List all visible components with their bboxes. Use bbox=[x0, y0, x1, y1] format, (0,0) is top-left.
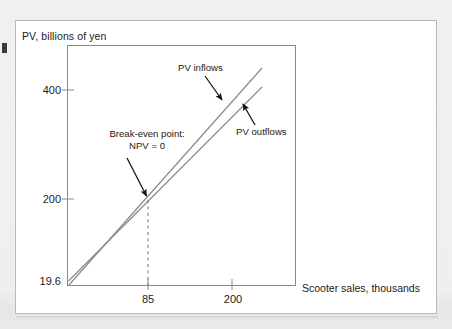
y-tick-label-19-6: 19.6 bbox=[21, 275, 61, 287]
y-tick-label-200: 200 bbox=[27, 193, 61, 205]
y-axis-title: PV, billions of yen bbox=[22, 30, 106, 42]
break-even-annotation: Break-even point: NPV = 0 bbox=[89, 128, 205, 152]
plot-frame bbox=[67, 45, 296, 286]
screenshot-root: PV, billions of yen 400 200 19.6 85 200 … bbox=[0, 0, 452, 329]
x-tick-label-200: 200 bbox=[216, 293, 250, 305]
break-even-line-2: NPV = 0 bbox=[89, 140, 205, 152]
left-edge-marker bbox=[2, 43, 7, 53]
y-tick-label-400: 400 bbox=[27, 84, 61, 96]
pv-inflows-label: PV inflows bbox=[178, 62, 223, 74]
x-tick-label-85: 85 bbox=[133, 293, 163, 305]
pv-outflows-label: PV outflows bbox=[236, 126, 287, 138]
x-axis-title: Scooter sales, thousands bbox=[302, 282, 420, 294]
break-even-line-1: Break-even point: bbox=[89, 128, 205, 140]
card-shadow bbox=[16, 316, 438, 319]
